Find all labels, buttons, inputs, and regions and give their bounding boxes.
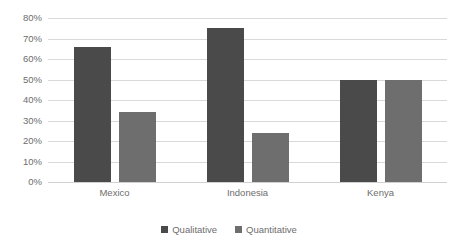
y-axis-tick-label: 80% [0, 13, 42, 23]
bar-indonesia-quantitative [252, 133, 289, 182]
bar-kenya-qualitative [340, 80, 377, 183]
y-axis-tick-label: 20% [0, 136, 42, 146]
bar-chart: 0%10%20%30%40%50%60%70%80% MexicoIndones… [0, 0, 458, 251]
bar-kenya-quantitative [385, 80, 422, 183]
y-axis-tick-label: 70% [0, 34, 42, 44]
y-axis-tick-label: 10% [0, 157, 42, 167]
gridline [48, 18, 447, 19]
x-axis: MexicoIndonesiaKenya [48, 186, 447, 204]
bar-mexico-qualitative [74, 47, 111, 182]
legend-item-qualitative[interactable]: Qualitative [161, 224, 217, 235]
x-axis-category-label: Indonesia [181, 186, 314, 200]
chart-legend: QualitativeQuantitative [0, 224, 458, 235]
legend-label: Quantitative [246, 224, 297, 235]
legend-swatch-icon [161, 226, 168, 233]
legend-swatch-icon [235, 226, 242, 233]
bar-mexico-quantitative [119, 112, 156, 182]
bar-indonesia-qualitative [207, 28, 244, 182]
y-axis-tick-label: 0% [0, 177, 42, 187]
legend-item-quantitative[interactable]: Quantitative [235, 224, 297, 235]
y-axis-tick-label: 50% [0, 75, 42, 85]
gridline [48, 182, 447, 183]
x-axis-category-label: Mexico [48, 186, 181, 200]
legend-label: Qualitative [172, 224, 217, 235]
y-axis-tick-label: 30% [0, 116, 42, 126]
y-axis: 0%10%20%30%40%50%60%70%80% [0, 18, 42, 182]
y-axis-tick-label: 60% [0, 54, 42, 64]
x-axis-category-label: Kenya [314, 186, 447, 200]
plot-area [48, 18, 447, 182]
gridline [48, 39, 447, 40]
y-axis-tick-label: 40% [0, 95, 42, 105]
